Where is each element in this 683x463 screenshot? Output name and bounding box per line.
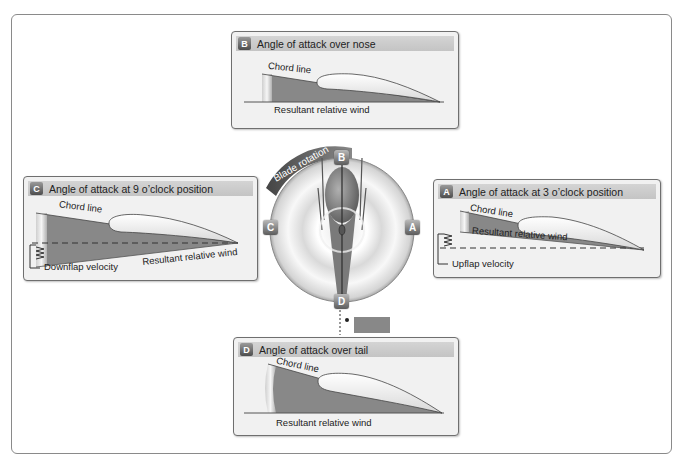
- downflap-velocity-label: Downflap velocity: [44, 261, 118, 272]
- wind-label: Resultant relative wind: [274, 104, 370, 115]
- upflap-velocity-label: Upflap velocity: [452, 258, 514, 269]
- panel-a-3-oclock: A Angle of attack at 3 o’clock position …: [433, 179, 661, 278]
- panel-d-tail: D Angle of attack over tail Chord line R…: [233, 337, 459, 436]
- spring-icon: [444, 234, 452, 246]
- panel-b-nose: B Angle of attack over nose Chord line R…: [231, 31, 459, 129]
- panel-c-9-oclock: C Angle of attack at 9 o’clock position …: [23, 176, 258, 281]
- helicopter-top-view: [262, 150, 428, 340]
- rotor-disc-diagram: Blade rotation B C A D: [262, 150, 428, 340]
- wind-label: Resultant relative wind: [276, 417, 372, 428]
- position-b-marker: B: [334, 150, 349, 165]
- position-a-marker: A: [405, 220, 420, 235]
- position-c-marker: C: [263, 220, 278, 235]
- position-d-marker: D: [334, 294, 349, 309]
